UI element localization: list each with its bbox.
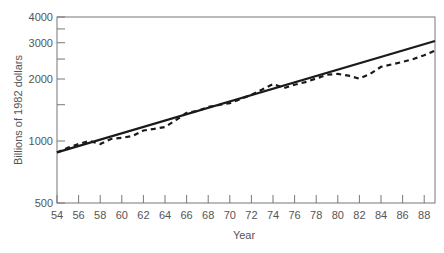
x-tick-label: 82 <box>353 209 365 221</box>
x-tick-label: 60 <box>116 209 128 221</box>
plot-frame <box>57 17 435 203</box>
x-tick-label: 76 <box>288 209 300 221</box>
y-axis-ticks: 5001000200030004000 <box>29 11 65 209</box>
x-tick-label: 80 <box>332 209 344 221</box>
x-axis-ticks: 545658606264666870727476788082848688 <box>51 195 430 221</box>
x-tick-label: 70 <box>224 209 236 221</box>
y-tick-label: 1000 <box>29 135 53 147</box>
y-tick-label: 3000 <box>29 37 53 49</box>
y-tick-label: 4000 <box>29 11 53 23</box>
gnp-trend-chart: 5001000200030004000 54565860626466687072… <box>0 0 444 253</box>
x-tick-label: 62 <box>137 209 149 221</box>
x-tick-label: 72 <box>245 209 257 221</box>
x-tick-label: 56 <box>72 209 84 221</box>
x-tick-label: 74 <box>267 209 279 221</box>
actual-dashed-line <box>57 51 435 153</box>
x-tick-label: 64 <box>159 209 171 221</box>
x-tick-label: 66 <box>180 209 192 221</box>
y-axis-title: Billions of 1982 dollars <box>12 54 24 165</box>
x-tick-label: 88 <box>418 209 430 221</box>
x-tick-label: 54 <box>51 209 63 221</box>
x-tick-label: 84 <box>375 209 387 221</box>
x-tick-label: 78 <box>310 209 322 221</box>
x-tick-label: 68 <box>202 209 214 221</box>
y-tick-label: 2000 <box>29 73 53 85</box>
x-axis-title: Year <box>233 229 256 241</box>
x-tick-label: 58 <box>94 209 106 221</box>
x-tick-label: 86 <box>396 209 408 221</box>
y-tick-label: 500 <box>35 197 53 209</box>
